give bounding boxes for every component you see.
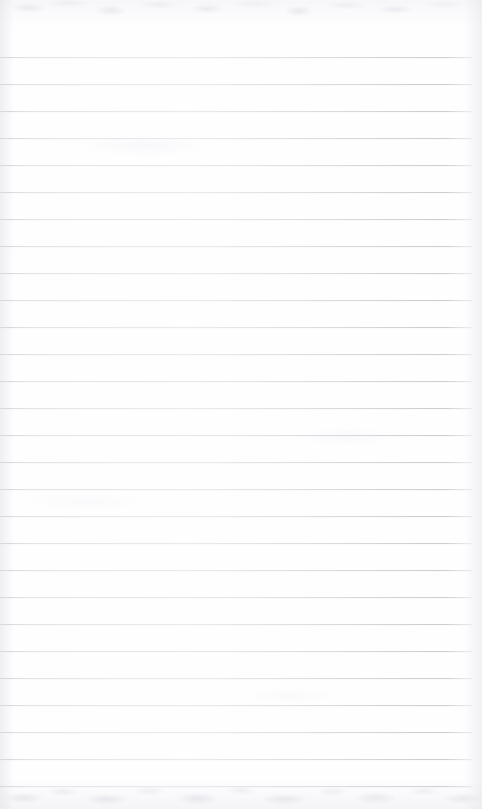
rule-line	[0, 489, 472, 490]
rule-line	[0, 570, 472, 571]
rule-line	[0, 84, 472, 85]
rule-line	[0, 543, 472, 544]
rule-line	[0, 408, 472, 409]
notebook-page	[0, 0, 482, 809]
rule-line	[0, 300, 472, 301]
rule-line	[0, 597, 472, 598]
rule-line	[0, 732, 472, 733]
rule-line	[0, 246, 472, 247]
rule-line	[0, 219, 472, 220]
rule-line	[0, 624, 472, 625]
rule-line	[0, 759, 472, 760]
rule-line	[0, 327, 472, 328]
rule-line	[0, 111, 472, 112]
rule-line	[0, 462, 472, 463]
rule-line	[0, 57, 472, 58]
rule-line	[0, 354, 472, 355]
rule-line	[0, 678, 472, 679]
rule-line	[0, 192, 472, 193]
rule-line	[0, 381, 472, 382]
rule-line	[0, 786, 472, 787]
rule-line	[0, 165, 472, 166]
rule-line	[0, 651, 472, 652]
rule-line	[0, 273, 472, 274]
rule-line	[0, 435, 472, 436]
ruled-lines-group	[0, 0, 482, 809]
rule-line	[0, 516, 472, 517]
rule-line	[0, 138, 472, 139]
rule-line	[0, 705, 472, 706]
